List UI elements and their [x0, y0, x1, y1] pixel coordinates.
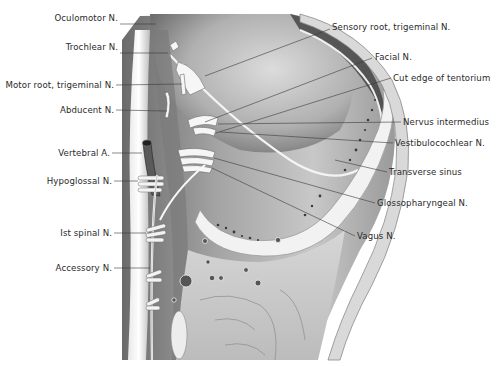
- label-facial-nerve: Facial N.: [375, 52, 412, 62]
- label-trochlear-nerve: Trochlear N.: [66, 42, 118, 52]
- label-vagus-nerve: Vagus N.: [357, 231, 396, 241]
- label-vestibulocochlear-nerve: Vestibulocochlear N.: [395, 138, 485, 148]
- label-cut-edge-tentorium: Cut edge of tentorium: [393, 73, 490, 83]
- label-transverse-sinus: Transverse sinus: [389, 167, 462, 177]
- label-motor-root-trigeminal: Motor root, trigeminal N.: [5, 80, 114, 90]
- label-vertebral-artery: Vertebral A.: [58, 148, 110, 158]
- label-hypoglossal-nerve: Hypoglossal N.: [47, 176, 112, 186]
- label-first-spinal-nerve: Ist spinal N.: [60, 228, 112, 238]
- label-accessory-nerve: Accessory N.: [56, 263, 112, 273]
- label-sensory-root-trigeminal: Sensory root, trigeminal N.: [332, 22, 450, 32]
- label-oculomotor-nerve: Oculomotor N.: [54, 13, 118, 23]
- label-nervus-intermedius: Nervus intermedius: [403, 117, 489, 127]
- label-abducent-nerve: Abducent N.: [60, 105, 114, 115]
- label-glossopharyngeal-nerve: Glossopharyngeal N.: [377, 198, 468, 208]
